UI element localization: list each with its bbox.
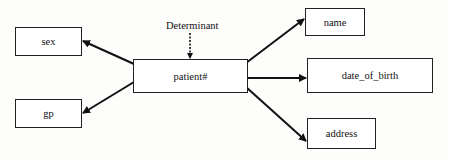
arrow-patient-to-gp [83,82,134,113]
attribute-label-sex: sex [42,36,56,47]
attribute-label-name: name [324,17,347,28]
attribute-label-date-of-birth: date_of_birth [342,70,399,81]
attribute-box-address: address [307,118,376,149]
attribute-box-sex: sex [15,27,82,56]
attribute-label-gp: gp [43,108,54,119]
attribute-label-address: address [326,128,358,139]
entity-label-patient: patient# [174,71,208,82]
attribute-box-date-of-birth: date_of_birth [307,58,433,93]
entity-box-patient: patient# [133,59,248,93]
attribute-box-name: name [305,8,365,36]
determinant-label: Determinant [166,20,218,31]
arrow-patient-to-name [246,19,304,63]
arrow-patient-to-address [246,87,306,141]
attribute-box-gp: gp [15,99,82,128]
arrow-patient-to-sex [83,41,134,64]
